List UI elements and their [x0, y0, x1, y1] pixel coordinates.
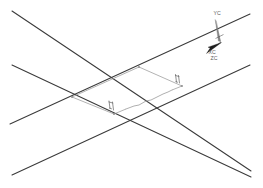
vertex-dot-right — [181, 85, 183, 87]
vertex-dot-top — [138, 66, 140, 68]
drawing-canvas[interactable]: YC XC ZC — [0, 0, 263, 188]
canvas-background — [0, 0, 263, 188]
vertex-dot-left — [71, 96, 73, 98]
isometric-drawing[interactable]: YC XC ZC — [0, 0, 263, 188]
y-axis-label: YC — [214, 10, 222, 16]
z-axis-label: ZC — [211, 55, 218, 61]
vertex-dot-bottom — [113, 113, 115, 115]
